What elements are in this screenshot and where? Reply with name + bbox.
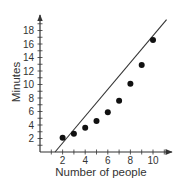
x-tick-label: 4	[82, 155, 88, 166]
x-tick-label: 2	[60, 155, 66, 166]
y-tick-label: 6	[28, 106, 34, 117]
scatter-chart: 24681024681012141618 Number of people Mi…	[0, 0, 181, 187]
y-tick-label: 16	[23, 39, 35, 50]
y-tick-label: 10	[23, 79, 35, 90]
data-point	[139, 62, 145, 68]
y-tick-label: 8	[28, 93, 34, 104]
data-point	[150, 37, 156, 43]
data-point	[94, 118, 100, 124]
x-tick-label: 6	[105, 155, 111, 166]
data-point	[60, 135, 66, 141]
data-point	[82, 125, 88, 131]
y-tick-label: 18	[23, 25, 35, 36]
data-point	[116, 98, 122, 104]
y-tick-label: 14	[23, 52, 35, 63]
y-tick-label: 4	[28, 120, 34, 131]
ticks: 24681024681012141618	[23, 24, 164, 166]
y-tick-label: 12	[23, 66, 35, 77]
x-tick-label: 8	[128, 155, 134, 166]
x-axis-label: Number of people	[55, 166, 146, 178]
data-point	[127, 81, 133, 87]
y-axis-label: Minutes	[10, 62, 22, 103]
data-point	[71, 131, 77, 137]
x-tick-label: 10	[147, 155, 159, 166]
axes	[40, 15, 172, 152]
data-point	[105, 109, 111, 115]
y-tick-label: 2	[28, 133, 34, 144]
